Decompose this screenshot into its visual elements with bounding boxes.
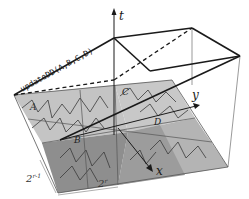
diagram-canvas: updateDD(A,B,C,D) t y x A B C D 2r-1 2r bbox=[0, 0, 249, 199]
depth-dimension-label: 2r-1 bbox=[25, 172, 41, 184]
t-axis-label: t bbox=[119, 9, 124, 23]
region-C-label: C bbox=[122, 87, 129, 97]
x-axis-label: x bbox=[156, 164, 163, 178]
region-A-label: A bbox=[29, 102, 37, 112]
function-label: updateDD(A,B,C,D) bbox=[19, 46, 95, 94]
y-axis-label: y bbox=[191, 88, 199, 102]
width-dimension-label: 2r bbox=[97, 177, 108, 189]
region-D-label: D bbox=[153, 117, 161, 127]
region-B-label: B bbox=[73, 135, 81, 145]
